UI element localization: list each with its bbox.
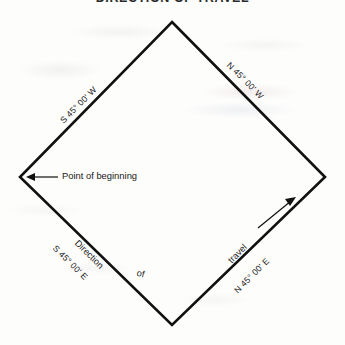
point-of-beginning-arrow [26,173,58,181]
survey-diagram-page: DIRECTION OF TRAVEL S 45° 00' W N 45° 00… [0,0,345,345]
survey-figure [0,0,345,345]
direction-of-travel-word-of: of [136,268,146,279]
point-of-beginning-label: Point of beginning [62,170,137,181]
